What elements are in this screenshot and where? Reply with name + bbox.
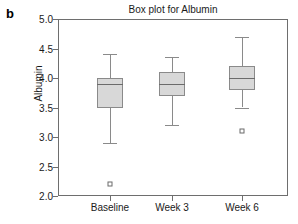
median-line: [159, 84, 185, 85]
outlier-marker: [240, 129, 245, 134]
x-tick-mark: [110, 196, 111, 201]
plot-area: [58, 19, 288, 196]
outlier-marker: [108, 182, 113, 187]
chart-title: Box plot for Albumin: [58, 4, 288, 15]
whisker-cap-lower: [235, 108, 249, 109]
y-tick-mark: [53, 196, 58, 197]
whisker-cap-lower: [165, 125, 179, 126]
y-tick-label: 3.5: [39, 102, 53, 113]
box-iqr: [97, 78, 123, 108]
y-tick-label: 5.0: [39, 14, 53, 25]
whisker-cap-upper: [165, 57, 179, 58]
y-tick-label: 3.0: [39, 132, 53, 143]
x-tick-mark: [242, 196, 243, 201]
x-tick-label-baseline: Baseline: [91, 202, 129, 213]
whisker-cap-lower: [103, 143, 117, 144]
whisker-cap-upper: [103, 54, 117, 55]
x-tick-mark: [172, 196, 173, 201]
x-tick-label-week-6: Week 6: [225, 202, 259, 213]
y-axis-tick-labels: 2.02.53.03.54.04.55.0: [0, 0, 53, 224]
x-tick-label-week-3: Week 3: [155, 202, 189, 213]
whisker-cap-upper: [235, 37, 249, 38]
y-tick-label: 4.0: [39, 73, 53, 84]
y-tick-label: 2.0: [39, 191, 53, 202]
y-tick-label: 2.5: [39, 161, 53, 172]
y-tick-label: 4.5: [39, 43, 53, 54]
median-line: [229, 78, 255, 79]
box-plot-figure: b Box plot for Albumin Albumin 2.02.53.0…: [0, 0, 298, 224]
median-line: [97, 84, 123, 85]
